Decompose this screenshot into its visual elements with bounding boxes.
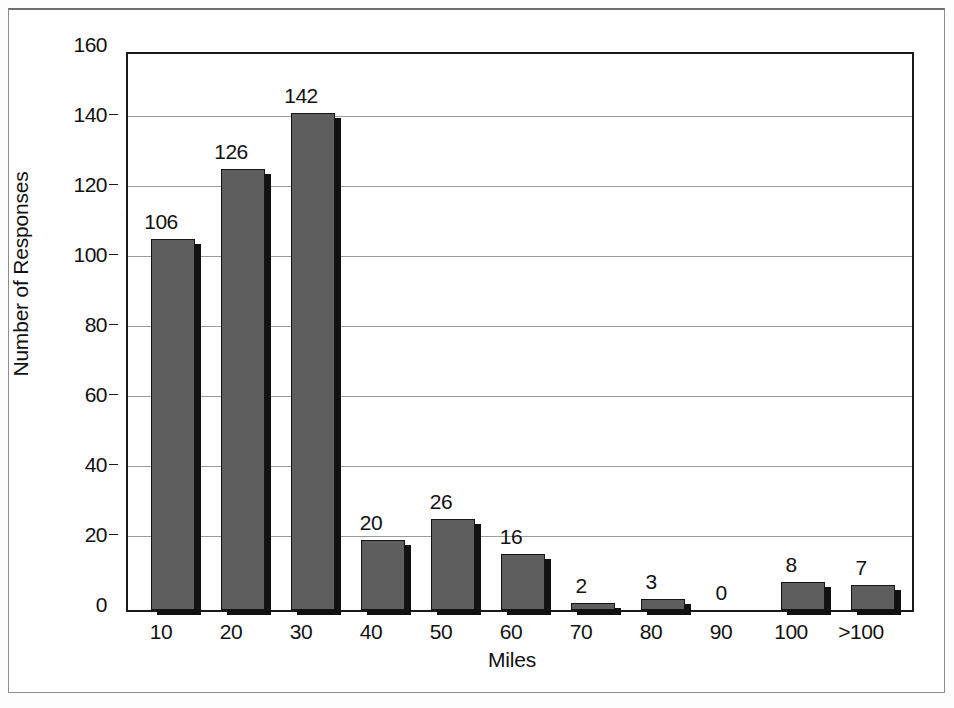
- y-tick-label-80: 80: [45, 314, 107, 335]
- x-axis-title: Miles: [118, 648, 906, 672]
- bar-value-30: 142: [256, 84, 346, 108]
- bar-value-20: 126: [186, 140, 276, 164]
- bar-value-60: 16: [466, 525, 556, 549]
- y-tick-label-60: 60: [45, 384, 107, 405]
- bar-value-90: 0: [676, 581, 766, 605]
- bar-value-10: 106: [116, 210, 206, 234]
- y-tick-label-120: 120: [45, 174, 107, 195]
- chart-page: Number of Responses 160 140 120 100 80 6…: [0, 0, 954, 708]
- bar-body: [361, 540, 405, 610]
- bar-body: [291, 113, 335, 610]
- bar-value-50: 26: [396, 490, 486, 514]
- y-tick-label-100: 100: [45, 244, 107, 265]
- y-tick-mark-140: [109, 114, 118, 115]
- bar-value-gt100: 7: [816, 556, 906, 580]
- y-axis-title: Number of Responses: [9, 74, 33, 474]
- gridline-140: [128, 116, 912, 117]
- y-tick-mark-40: [109, 464, 118, 465]
- bar-body: [221, 169, 265, 610]
- y-tick-label-40: 40: [45, 454, 107, 475]
- bar-body: [781, 582, 825, 610]
- bar-body: [571, 603, 615, 610]
- y-tick-label-160: 160: [45, 34, 107, 55]
- y-tick-mark-100: [109, 254, 118, 255]
- y-tick-label-20: 20: [45, 524, 107, 545]
- y-tick-mark-60: [109, 394, 118, 395]
- y-tick-mark-20: [109, 534, 118, 535]
- y-tick-mark-80: [109, 324, 118, 325]
- bar-body: [851, 585, 895, 610]
- y-tick-mark-120: [109, 184, 118, 185]
- y-tick-label-0: 0: [45, 594, 107, 615]
- bar-body: [151, 239, 195, 610]
- figure-frame: Number of Responses 160 140 120 100 80 6…: [8, 8, 945, 693]
- bar-value-40: 20: [326, 511, 416, 535]
- x-tick-label-gt100: >100: [816, 620, 906, 644]
- y-tick-label-140: 140: [45, 104, 107, 125]
